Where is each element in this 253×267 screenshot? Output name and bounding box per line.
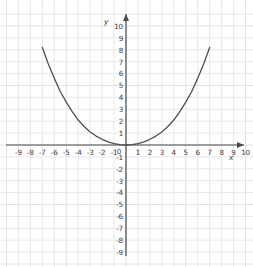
y-tick-label: -6: [116, 212, 123, 221]
origin-label: 0: [117, 147, 122, 156]
graph-canvas: -9-8-7-6-5-4-3-2-112345678910 1098765432…: [0, 0, 253, 267]
x-tick-label: -2: [99, 148, 106, 157]
y-tick-label: -2: [116, 165, 123, 174]
y-tick-label: 6: [119, 69, 124, 78]
y-tick-label: -7: [116, 224, 123, 233]
y-tick-label: -5: [116, 200, 123, 209]
y-tick-label: 4: [119, 93, 124, 102]
y-axis-tick-labels: 10987654321-1-2-3-4-5-6-7-8-9: [114, 22, 123, 257]
y-tick-label: 5: [119, 81, 123, 90]
x-tick-label: 5: [184, 148, 188, 157]
x-tick-label: -6: [51, 148, 58, 157]
y-tick-label: 9: [119, 34, 124, 43]
y-tick-label: 2: [119, 117, 123, 126]
y-tick-label: -9: [116, 248, 123, 257]
x-tick-label: 6: [196, 148, 201, 157]
x-tick-label: -8: [27, 148, 34, 157]
y-tick-label: -8: [116, 236, 123, 245]
x-tick-label: 8: [219, 148, 224, 157]
y-axis-arrow-icon: [123, 14, 129, 21]
x-axis-title: x: [228, 153, 234, 162]
x-tick-label: 3: [160, 148, 164, 157]
x-tick-label: -5: [63, 148, 70, 157]
y-tick-label: -3: [116, 177, 123, 186]
y-tick-label: 10: [114, 22, 123, 31]
x-tick-label: -9: [15, 148, 22, 157]
x-tick-label: -3: [87, 148, 94, 157]
y-tick-label: 3: [119, 105, 123, 114]
y-tick-label: 8: [119, 46, 124, 55]
y-axis-title: y: [103, 17, 109, 26]
x-tick-label: 7: [207, 148, 211, 157]
x-tick-label: 2: [148, 148, 152, 157]
y-tick-label: 1: [119, 129, 123, 138]
x-tick-label: 1: [136, 148, 140, 157]
coordinate-graph-figure: -9-8-7-6-5-4-3-2-112345678910 1098765432…: [0, 0, 253, 267]
y-tick-label: 7: [119, 58, 123, 67]
x-tick-label: -7: [39, 148, 46, 157]
x-axis-tick-labels: -9-8-7-6-5-4-3-2-112345678910: [15, 148, 250, 157]
x-tick-label: 4: [172, 148, 177, 157]
x-tick-label: 10: [241, 148, 250, 157]
y-tick-label: -4: [116, 188, 123, 197]
x-tick-label: -4: [75, 148, 82, 157]
